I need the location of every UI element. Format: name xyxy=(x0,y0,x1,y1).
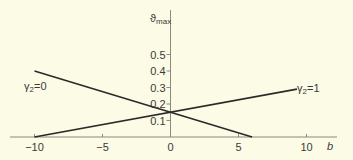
axes xyxy=(10,10,337,137)
y-tick-label: 0.3 xyxy=(150,82,165,94)
y-axis-label: ϑmax xyxy=(150,12,171,26)
axis-labels: ϑmax b xyxy=(150,12,333,152)
chart: −10−50510 0.10.20.30.40.5 ϑmax b γ2=0 γ2… xyxy=(0,0,353,160)
x-tick-label: 0 xyxy=(167,141,173,153)
y-tick-label: 0.5 xyxy=(150,49,165,61)
series-lines xyxy=(35,71,297,137)
x-axis-label: b xyxy=(327,140,333,152)
series-label-gamma1: γ2=1 xyxy=(297,82,320,96)
x-tick-label: −5 xyxy=(96,141,109,153)
x-tick-label: 5 xyxy=(235,141,241,153)
x-tick-label: −10 xyxy=(25,141,44,153)
y-tick-label: 0.4 xyxy=(150,65,165,77)
x-tick-label: 10 xyxy=(300,141,312,153)
series-line-1 xyxy=(35,89,297,137)
series-label-gamma0: γ2=0 xyxy=(24,80,47,94)
